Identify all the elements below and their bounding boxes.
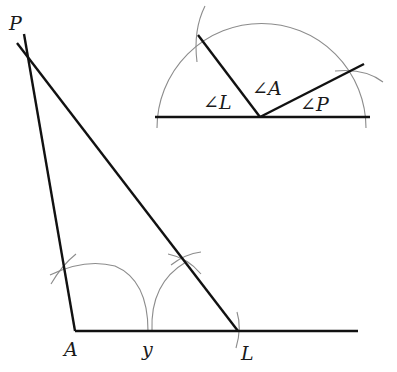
side-AP bbox=[24, 34, 75, 331]
point-y-label: y bbox=[141, 338, 153, 360]
vertex-L-label: L bbox=[240, 342, 254, 364]
vertex-P-label: P bbox=[8, 12, 23, 34]
arc-at-y bbox=[152, 262, 186, 331]
angle-L-label: ∠L bbox=[203, 91, 232, 113]
angle-A-label: ∠A bbox=[252, 77, 282, 99]
geometry-diagram: ∠L ∠A ∠P P A L y bbox=[0, 0, 397, 372]
vertex-A-label: A bbox=[62, 338, 78, 360]
main-construction: P A L y bbox=[8, 12, 358, 364]
angle-P-label: ∠P bbox=[300, 93, 330, 115]
inset-arc-mark-left bbox=[196, 6, 205, 62]
inset-semicircle-arc bbox=[157, 23, 366, 128]
inset-construction: ∠L ∠A ∠P bbox=[155, 6, 383, 128]
